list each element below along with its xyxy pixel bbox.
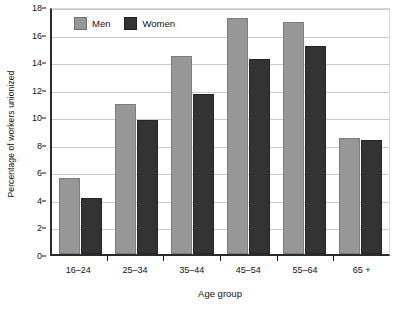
bar-group <box>52 9 108 254</box>
y-tick-mark <box>42 63 46 64</box>
y-tick-mark <box>42 200 46 201</box>
bar-group <box>108 9 164 254</box>
x-tick-label: 25–34 <box>107 264 164 280</box>
legend-swatch-women-icon <box>124 17 137 30</box>
bar-women <box>193 94 214 254</box>
chart-legend: Men Women <box>74 17 175 30</box>
bar-women <box>249 59 270 254</box>
bar-men <box>115 104 136 254</box>
y-tick-mark <box>42 90 46 91</box>
x-axis-tick-labels: 16–2425–3435–4445–5455–6465 + <box>50 264 390 280</box>
bar-women <box>361 140 382 254</box>
y-tick-label: 14 <box>32 59 42 68</box>
y-tick-mark <box>42 118 46 119</box>
x-tick-mark <box>107 256 108 261</box>
x-tick-mark <box>277 256 278 261</box>
x-tick-mark <box>163 256 164 261</box>
x-axis-title: Age group <box>50 288 390 299</box>
x-tick-mark <box>220 256 221 261</box>
x-tick-label: 16–24 <box>50 264 107 280</box>
y-tick-mark <box>42 256 46 257</box>
y-tick-label: 16 <box>32 31 42 40</box>
bar-chart-figure: Percentage of workers unionized 02468101… <box>0 0 404 316</box>
bar-women <box>81 198 102 254</box>
y-tick-mark <box>42 145 46 146</box>
bar-women <box>137 120 158 254</box>
bar-men <box>227 18 248 254</box>
bar-group <box>333 9 389 254</box>
legend-label-women: Women <box>142 18 175 29</box>
x-tick-mark <box>333 256 334 261</box>
y-axis-title: Percentage of workers unionized <box>0 0 22 268</box>
x-tick-label: 35–44 <box>163 264 220 280</box>
bar-group <box>277 9 333 254</box>
y-tick-mark <box>42 35 46 36</box>
bar-group <box>164 9 220 254</box>
x-tick-label: 55–64 <box>277 264 334 280</box>
y-tick-mark <box>42 173 46 174</box>
plot-area <box>50 8 390 256</box>
legend-entry-men: Men <box>74 17 110 30</box>
y-axis-title-text: Percentage of workers unionized <box>6 71 16 198</box>
bar-men <box>283 22 304 254</box>
bar-women <box>305 46 326 254</box>
bar-men <box>339 138 360 254</box>
x-axis-tick-marks <box>50 256 390 262</box>
y-tick-label: 18 <box>32 4 42 13</box>
y-axis-tick-labels: 024681012141618 <box>22 8 46 256</box>
bar-group <box>221 9 277 254</box>
y-tick-label: 10 <box>32 114 42 123</box>
x-tick-label: 65 + <box>333 264 390 280</box>
legend-entry-women: Women <box>124 17 175 30</box>
x-tick-label: 45–54 <box>220 264 277 280</box>
y-tick-mark <box>42 8 46 9</box>
legend-swatch-men-icon <box>74 17 87 30</box>
bars-layer <box>52 9 389 254</box>
legend-label-men: Men <box>92 18 110 29</box>
y-tick-label: 12 <box>32 86 42 95</box>
y-tick-mark <box>42 228 46 229</box>
bar-men <box>171 56 192 254</box>
bar-men <box>59 178 80 254</box>
